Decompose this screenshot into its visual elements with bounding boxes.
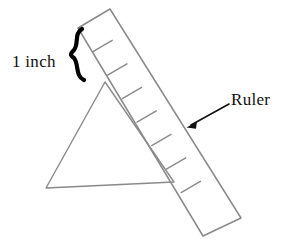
ruler-tick — [166, 158, 185, 169]
ruler-tick — [122, 87, 141, 98]
ruler-tick-marks — [93, 40, 200, 192]
ruler-tick — [181, 181, 200, 192]
curly-brace-icon — [71, 29, 84, 80]
curly-brace-annotation — [71, 29, 84, 80]
ruler-callout-label: Ruler — [231, 90, 270, 110]
ruler-pointer-arrow — [187, 104, 230, 129]
ruler-shape — [78, 9, 241, 236]
triangle-outline — [46, 82, 174, 188]
arrow-head-icon — [187, 122, 198, 129]
ruler-tick — [93, 40, 112, 51]
triangle-shape — [46, 82, 174, 188]
ruler-outline — [78, 9, 241, 236]
inch-measurement-label: 1 inch — [12, 52, 56, 72]
ruler-tick — [152, 134, 171, 145]
ruler-tick — [137, 111, 156, 122]
ruler-tick — [108, 64, 127, 75]
ruler-and-triangle-figure — [0, 0, 296, 247]
